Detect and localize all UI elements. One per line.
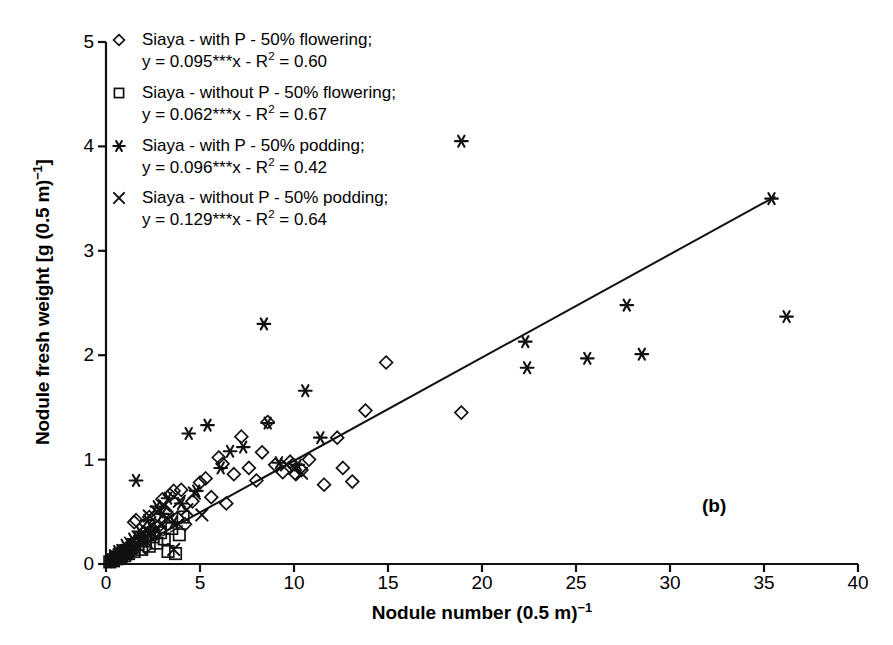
overall-fit-line — [106, 197, 775, 564]
chart-figure: Nodule fresh weight [g (0.5 m)−1] Nodule… — [0, 0, 893, 645]
series-asterisk — [107, 136, 793, 564]
series-cross — [106, 459, 307, 565]
plot-area — [0, 0, 893, 645]
